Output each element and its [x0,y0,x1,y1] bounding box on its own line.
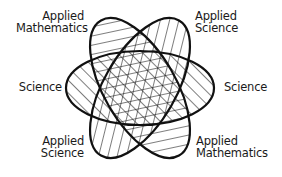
label-line: Mathematics [196,147,268,159]
label-line: Mathematics [16,22,84,34]
label-applied-mathematics-top-left: Applied Mathematics [16,10,84,34]
label-science-right: Science [224,81,267,93]
label-line: Science [10,81,62,93]
label-applied-science-bottom-left: Applied Science [28,135,84,159]
label-line: Science [28,147,84,159]
label-science-left: Science [10,81,62,93]
label-applied-mathematics-bottom-right: Applied Mathematics [196,135,268,159]
label-applied-science-top-right: Applied Science [195,10,238,34]
label-line: Science [224,81,267,93]
label-line: Science [195,22,238,34]
